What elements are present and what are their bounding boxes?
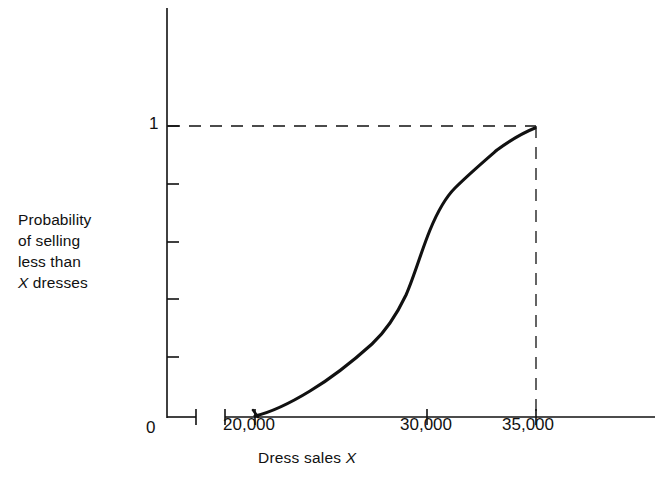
x-axis-title: Dress sales X	[258, 449, 356, 467]
y-origin-tick-label: 0	[146, 418, 155, 438]
x-axis-title-italic-x: X	[346, 449, 357, 466]
x-tick-label-35000: 35,000	[502, 415, 554, 435]
chart-figure: Probability of selling less than X dress…	[0, 0, 663, 479]
y-tick-label-1: 1	[149, 114, 158, 134]
y-axis-title-italic-x: X	[18, 274, 28, 291]
y-axis-title-line-2: of selling	[18, 230, 150, 251]
x-tick-label-30000: 30,000	[400, 415, 452, 435]
y-axis-title: Probability of selling less than X dress…	[18, 209, 150, 293]
y-axis-title-line-1: Probability	[18, 209, 150, 230]
cumulative-probability-curve	[255, 128, 535, 416]
y-axis-title-line-4: X dresses	[18, 272, 150, 293]
y-axis-title-line-3: less than	[18, 251, 150, 272]
y-axis-ticks	[167, 126, 179, 357]
x-axis-title-prefix: Dress sales	[258, 449, 346, 466]
x-tick-label-20000: 20,000	[223, 415, 275, 435]
